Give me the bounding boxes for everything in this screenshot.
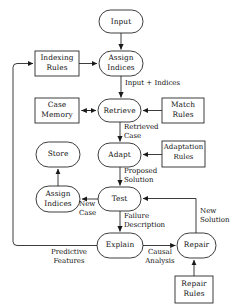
node-shape-test [98,187,141,211]
diagram-canvas [0,0,239,307]
node-shape-case-memory [35,98,79,123]
node-shape-assign-indices-bottom [36,186,80,212]
edge-repair-to-test [143,199,196,234]
node-shape-store [36,142,80,167]
node-shape-repair [177,233,216,258]
node-shape-indexing-rules [35,51,79,76]
edge-explain-to-indexing-rules [13,64,97,246]
node-shape-match-rules [162,98,204,123]
node-shape-input [99,10,143,33]
node-shape-adapt [98,143,141,167]
node-shape-assign-indices-top [99,51,143,76]
node-shape-repair-rules [175,276,213,303]
node-shape-retrieve [98,99,141,122]
node-shape-adaptation-rules [162,141,205,167]
flowchart-diagram: Input Indexing Rules Assign Indices Case… [0,0,239,307]
node-shape-explain [97,233,143,258]
